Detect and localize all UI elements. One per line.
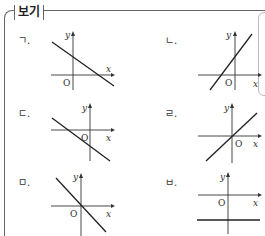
svg-text:O: O: [81, 133, 88, 143]
graph-4-line-chart: y x O: [195, 103, 265, 169]
graph-label: ㅁ.: [18, 174, 30, 189]
svg-text:x: x: [253, 198, 258, 208]
box-frame-left: [4, 20, 5, 236]
svg-text:x: x: [106, 64, 111, 74]
svg-text:y: y: [72, 172, 79, 182]
graph-5-line-chart: y x O: [48, 172, 118, 236]
svg-text:O: O: [225, 78, 232, 88]
graph-item-5: ㅁ. y x O: [18, 172, 128, 236]
graph-item-4: ㄹ. y x O: [165, 103, 265, 169]
graph-label: ㄷ.: [18, 105, 30, 120]
graph-2-line-chart: y x O: [195, 30, 265, 96]
graph-item-3: ㄷ. y x O: [18, 103, 128, 169]
svg-text:y: y: [81, 103, 88, 113]
svg-text:y: y: [219, 172, 226, 182]
svg-text:O: O: [70, 209, 77, 219]
svg-text:x: x: [253, 139, 258, 149]
svg-text:y: y: [64, 30, 71, 40]
graph-item-2: ㄴ. y x O: [165, 30, 265, 96]
svg-text:x: x: [253, 79, 258, 89]
svg-text:x: x: [106, 133, 111, 143]
graph-3-line-chart: y x O: [48, 103, 118, 169]
graph-label: ㅂ.: [165, 174, 177, 189]
svg-text:y: y: [223, 103, 230, 113]
svg-text:O: O: [235, 139, 242, 149]
svg-text:O: O: [218, 198, 225, 208]
box-title: 보기: [14, 5, 44, 20]
graph-1-line-chart: y x O: [48, 30, 118, 96]
graph-label: ㄴ.: [165, 32, 177, 47]
graph-item-6: ㅂ. y x O: [165, 172, 265, 236]
svg-text:x: x: [106, 209, 111, 219]
graph-label: ㄹ.: [165, 105, 177, 120]
graph-item-1: ㄱ. y x O: [18, 30, 128, 96]
graph-label: ㄱ.: [18, 32, 30, 47]
box-frame-top: [40, 10, 265, 11]
graph-6-line-chart: y x O: [195, 172, 265, 236]
svg-text:y: y: [225, 30, 232, 40]
svg-text:O: O: [63, 78, 70, 88]
